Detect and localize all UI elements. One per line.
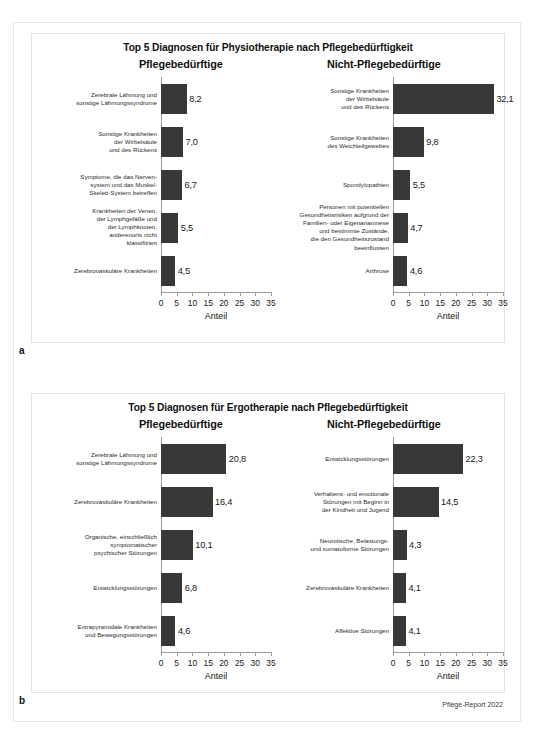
x-axis-tick	[161, 292, 162, 296]
bar-row: 4,5	[161, 256, 271, 286]
x-axis-tick	[487, 652, 488, 656]
x-axis-tick	[208, 292, 209, 296]
category-label: Entwicklungsstörungen	[35, 583, 157, 591]
x-axis-tick	[255, 652, 256, 656]
x-axis-tick	[440, 652, 441, 656]
bar-row: 20,8	[161, 444, 271, 474]
x-axis-tick-label: 5	[406, 298, 411, 308]
x-axis-tick-label: 10	[188, 298, 197, 308]
x-axis-title: Anteil	[437, 311, 460, 321]
bar-value-label: 5,5	[413, 180, 425, 190]
category-label: Krankheiten der Venen,der Lymphgefäße un…	[35, 207, 157, 248]
x-axis-tick-label: 35	[498, 658, 507, 668]
bar	[161, 573, 182, 603]
bar	[393, 256, 407, 286]
bar-row: 8,2	[161, 84, 271, 114]
bar	[393, 444, 463, 474]
bar-value-label: 4,7	[410, 223, 422, 233]
x-axis-tick	[409, 652, 410, 656]
category-label: Neurotische, Belastungs-und somatoforme …	[267, 536, 389, 552]
figure-b-label: b	[19, 695, 25, 706]
category-label: Zerebrovaskuläre Krankheiten	[35, 266, 157, 274]
category-label: Spondylopathien	[267, 180, 389, 188]
category-label: Zerebrale Lähmung undsonstige Lähmungssy…	[35, 450, 157, 466]
x-axis-tick	[240, 652, 241, 656]
x-axis-tick	[240, 292, 241, 296]
category-label: Sonstige Krankheitendes Weichteilgewebes	[267, 133, 389, 149]
x-axis-title: Anteil	[205, 671, 228, 681]
x-axis-tick	[177, 292, 178, 296]
footer-credit: Pflege-Report 2022	[442, 701, 503, 708]
x-axis-tick-label: 0	[391, 298, 396, 308]
bar-row: 5,5	[161, 213, 271, 243]
figure-a: Top 5 Diagnosen für Physiotherapie nach …	[31, 33, 505, 343]
category-label: Arthrose	[267, 266, 389, 274]
bar-value-label: 9,8	[426, 137, 438, 147]
x-axis-tick-label: 25	[235, 658, 244, 668]
x-axis-tick-label: 20	[451, 658, 460, 668]
x-axis-tick-label: 20	[451, 298, 460, 308]
category-label: Symptome, die das Nerven-system und das …	[35, 172, 157, 197]
figure-a-right-subtitle: Nicht-Pflegebedürftige	[327, 58, 441, 70]
x-axis-tick-label: 25	[467, 658, 476, 668]
plot-area: 20,816,410,16,84,605101520253035Anteil	[161, 437, 271, 652]
bar-value-label: 32,1	[496, 94, 513, 104]
category-label: Zerebrale Lähmung undsonstige Lähmungssy…	[35, 90, 157, 106]
x-axis-tick	[177, 652, 178, 656]
bar-value-label: 10,1	[195, 540, 212, 550]
page-frame: Top 5 Diagnosen für Physiotherapie nach …	[13, 22, 521, 722]
x-axis-tick-label: 30	[483, 298, 492, 308]
x-axis-tick	[224, 652, 225, 656]
bar-row: 16,4	[161, 487, 271, 517]
bar-row: 4,6	[161, 616, 271, 646]
bar-value-label: 4,1	[408, 626, 420, 636]
bar	[161, 170, 182, 200]
x-axis-tick	[503, 292, 504, 296]
bar	[393, 487, 439, 517]
bar	[161, 444, 226, 474]
bar-value-label: 4,5	[178, 266, 190, 276]
x-axis-tick-label: 5	[406, 658, 411, 668]
x-axis-tick	[224, 292, 225, 296]
x-axis-tick-label: 25	[467, 298, 476, 308]
bar-value-label: 6,8	[185, 583, 197, 593]
bar-row: 7,0	[161, 127, 271, 157]
bar-row: 32,1	[393, 84, 503, 114]
x-axis-tick-label: 5	[174, 658, 179, 668]
plot-area: 8,27,06,75,54,505101520253035Anteil	[161, 77, 271, 292]
bar	[393, 170, 410, 200]
x-axis-tick-label: 15	[435, 658, 444, 668]
figure-b-left-subtitle: Pflegebedürftige	[139, 418, 223, 430]
bar	[161, 127, 183, 157]
category-label: Sonstige Krankheitender Wirbelsäuleund d…	[267, 86, 389, 111]
x-axis-tick-label: 15	[203, 658, 212, 668]
x-axis-tick	[456, 652, 457, 656]
x-axis-tick	[409, 292, 410, 296]
x-axis-tick	[161, 652, 162, 656]
plot-area: 22,314,54,34,14,105101520253035Anteil	[393, 437, 503, 652]
bar-row: 6,7	[161, 170, 271, 200]
bar-value-label: 5,5	[181, 223, 193, 233]
x-axis-tick-label: 15	[435, 298, 444, 308]
x-axis-tick	[487, 292, 488, 296]
bar-row: 10,1	[161, 530, 271, 560]
x-axis-tick	[503, 652, 504, 656]
bar-row: 14,5	[393, 487, 503, 517]
bar	[393, 530, 407, 560]
x-axis-tick-label: 25	[235, 298, 244, 308]
x-axis-tick-label: 0	[159, 658, 164, 668]
figure-a-left-chart: Zerebrale Lähmung undsonstige Lähmungssy…	[35, 77, 271, 327]
bar	[393, 127, 424, 157]
x-axis-tick-label: 30	[251, 658, 260, 668]
bar-row: 6,8	[161, 573, 271, 603]
category-label: Organische, einschließlichsymptomatische…	[35, 532, 157, 557]
x-axis-tick-label: 10	[188, 658, 197, 668]
bar	[161, 256, 175, 286]
bar	[393, 84, 494, 114]
bar	[161, 487, 213, 517]
x-axis-tick-label: 30	[483, 658, 492, 668]
figure-a-label: a	[19, 345, 25, 356]
x-axis-tick	[393, 652, 394, 656]
category-label: Extrapyramidale Krankheitenund Bewegungs…	[35, 622, 157, 638]
category-label: Personen mit potentiellenGesundheitsrisi…	[267, 203, 389, 252]
